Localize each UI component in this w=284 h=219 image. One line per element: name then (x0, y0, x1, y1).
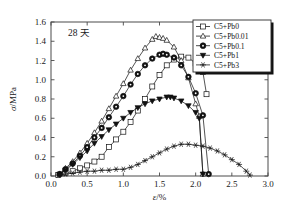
data-point-marker (128, 110, 134, 115)
data-point-marker (151, 58, 153, 60)
y-tick-label: 0.6 (35, 113, 47, 123)
y-tick-label: 0.2 (35, 152, 46, 162)
data-point-marker (193, 101, 199, 106)
data-point-marker (121, 129, 126, 134)
data-point-marker (122, 95, 124, 97)
data-point-marker (101, 127, 103, 129)
data-point-marker (186, 55, 191, 60)
x-tick-label: 1.0 (118, 179, 130, 189)
data-point-marker (106, 106, 112, 111)
data-point-marker (108, 116, 110, 118)
data-point-marker (92, 130, 98, 135)
data-point-marker (130, 84, 132, 86)
data-point-marker (99, 154, 104, 159)
data-point-marker (173, 57, 175, 59)
data-point-marker (93, 137, 95, 139)
series-line (60, 97, 203, 174)
legend-label: C5+Pb0 (214, 22, 239, 31)
legend-label: C5+Pb3 (214, 61, 239, 70)
data-point-marker (106, 145, 111, 150)
data-point-marker (208, 173, 210, 175)
x-axis-label: ε/% (153, 192, 167, 202)
data-point-marker (114, 137, 119, 142)
annotation-layer: 28 天 (68, 28, 90, 38)
data-point-marker (164, 63, 169, 68)
data-point-marker (197, 116, 203, 121)
data-point-marker (193, 110, 199, 115)
y-tick-label: 1.4 (35, 36, 47, 46)
annotation-label: 28 天 (68, 28, 90, 38)
data-point-marker (128, 120, 133, 125)
data-point-marker (188, 76, 190, 78)
data-point-marker (86, 146, 88, 148)
chart-figure: 0.00.51.01.52.02.53.00.00.20.40.60.81.01… (0, 0, 284, 219)
y-tick-label: 0.4 (35, 133, 47, 143)
data-point-marker (150, 84, 155, 89)
data-point-marker (178, 99, 184, 104)
stress-strain-plot: 0.00.51.01.52.02.53.00.00.20.40.60.81.01… (0, 0, 284, 219)
y-tick-label: 0.0 (35, 171, 47, 181)
x-tick-label: 1.5 (154, 179, 166, 189)
y-tick-label: 1.6 (35, 17, 47, 27)
y-tick-label: 1.0 (35, 75, 47, 85)
data-point-marker (135, 56, 141, 61)
y-axis-label: σ/MPa (8, 87, 18, 111)
data-point-marker (201, 24, 206, 29)
data-point-marker (204, 92, 209, 97)
data-point-marker (137, 73, 139, 75)
y-tick-label: 0.8 (35, 94, 47, 104)
legend-label: C5+Pb0.01 (214, 32, 249, 41)
data-point-marker (121, 116, 127, 121)
data-point-marker (113, 122, 119, 127)
data-point-marker (99, 118, 105, 123)
data-point-marker (195, 92, 197, 94)
data-point-marker (157, 72, 162, 77)
data-point-marker (180, 64, 182, 66)
legend-label: C5+Pb1 (214, 51, 239, 60)
data-point-marker (113, 93, 119, 98)
data-point-marker (202, 45, 204, 47)
x-tick-label: 2.5 (226, 179, 238, 189)
data-point-marker (144, 64, 146, 66)
x-tick-label: 3.0 (262, 179, 274, 189)
data-point-marker (143, 97, 148, 102)
data-point-marker (115, 106, 117, 108)
data-point-marker (77, 166, 82, 171)
data-point-marker (92, 159, 97, 164)
x-tick-label: 0.5 (82, 179, 94, 189)
data-point-marker (142, 102, 148, 107)
x-tick-label: 0.0 (45, 179, 57, 189)
chart-legend: C5+Pb0C5+Pb0.01C5+Pb0.1C5+Pb1C5+Pb3 (193, 20, 274, 75)
data-point-marker (128, 67, 134, 72)
series-c5-pb1 (57, 95, 206, 177)
legend-label: C5+Pb0.1 (214, 42, 245, 51)
y-tick-label: 1.2 (35, 56, 46, 66)
data-point-marker (121, 81, 127, 86)
data-point-marker (166, 54, 168, 56)
x-tick-label: 2.0 (190, 179, 202, 189)
data-point-marker (85, 163, 90, 168)
